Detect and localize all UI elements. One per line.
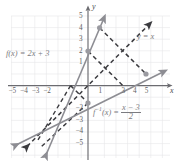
point-marker [85, 48, 90, 53]
x-tick-1: 1 [99, 88, 103, 95]
x-tick-5: 5 [145, 88, 149, 95]
y-tick--3: −3 [76, 117, 84, 124]
x-tick-3: 3 [122, 88, 126, 95]
function-label-y-equals-x: y = x [137, 33, 154, 41]
fraction-denominator: 2 [121, 113, 141, 122]
f-inverse-fraction: x − 3 2 [121, 104, 141, 122]
function-label-f: f(x) = 2x + 3 [6, 50, 49, 58]
y-tick-3: 3 [79, 36, 83, 43]
x-tick--2: −2 [43, 88, 51, 95]
f-inverse-superscript: −1 [95, 106, 102, 112]
y-tick--5: −5 [76, 140, 84, 147]
coordinate-plane [0, 0, 180, 167]
graph-figure: y x −5 −4 −3 −2 1 3 4 5 5 4 3 2 1 −2 −3 … [0, 0, 180, 167]
y-tick--4: −4 [76, 128, 84, 135]
x-tick-4: 4 [133, 88, 137, 95]
f-inverse-middle: (x) = [102, 108, 119, 117]
y-tick-2: 2 [79, 48, 83, 55]
x-tick--4: −4 [20, 88, 28, 95]
y-tick-1: 1 [79, 59, 83, 66]
point-marker [97, 25, 102, 30]
point-marker [85, 100, 90, 105]
y-axis-label: y [92, 3, 96, 11]
x-axis-label: x [170, 87, 174, 95]
x-tick--3: −3 [32, 88, 40, 95]
x-tick--5: −5 [9, 88, 17, 95]
y-tick-4: 4 [79, 25, 83, 32]
function-label-f-inverse: f−1(x) = x − 3 2 [93, 104, 141, 122]
y-tick-5: 5 [79, 13, 83, 20]
y-tick--2: −2 [76, 105, 84, 112]
point-marker [143, 71, 148, 76]
